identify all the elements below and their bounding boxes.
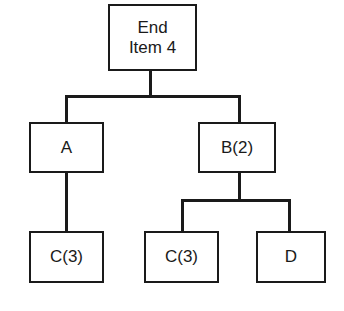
connector-a-to-c [65, 171, 68, 232]
connector-to-b [238, 95, 241, 123]
product-structure-diagram: End Item 4 A B(2) C(3) C(3) D [0, 0, 344, 311]
connector-to-a [65, 95, 68, 123]
node-label: D [285, 247, 297, 267]
connector-to-d [288, 199, 291, 232]
node-label: C(3) [165, 247, 198, 267]
node-c-under-b: C(3) [144, 231, 219, 283]
node-label: A [61, 138, 72, 158]
connector-to-c-under-b [181, 199, 184, 232]
node-c-under-a: C(3) [29, 231, 104, 283]
node-end-item: End Item 4 [108, 4, 197, 71]
node-b: B(2) [198, 122, 276, 173]
node-label: C(3) [50, 247, 83, 267]
node-d: D [256, 231, 326, 283]
node-label: End Item 4 [129, 18, 176, 58]
connector-level2-bus [181, 199, 291, 202]
connector-level1-bus [65, 95, 241, 98]
connector-b-down [238, 171, 241, 201]
node-label: B(2) [221, 138, 253, 158]
node-a: A [29, 122, 104, 173]
connector-end-item-down [149, 70, 152, 97]
